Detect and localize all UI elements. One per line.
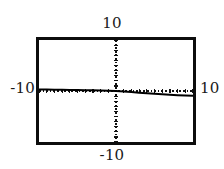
x-max-label: 10 — [200, 81, 224, 96]
calculator-screenshot: 10 -10 10 -10 — [0, 0, 224, 169]
x-min-label: -10 — [2, 81, 35, 96]
plot-frame — [36, 37, 196, 145]
y-max-label: 10 — [0, 16, 224, 31]
y-min-label: -10 — [0, 148, 224, 163]
plot-canvas — [39, 40, 193, 142]
plot-area — [39, 40, 193, 142]
